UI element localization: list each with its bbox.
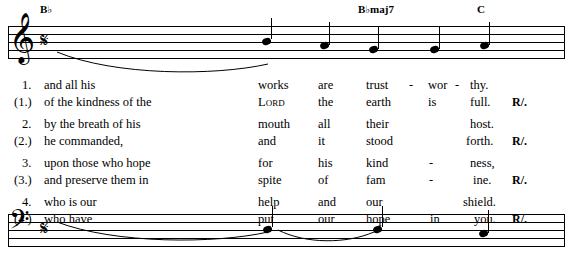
slur (276, 228, 376, 246)
bass-clef-icon: 𝄢 (9, 207, 30, 239)
verse-text: and all his (44, 78, 95, 93)
verse-syllable: works (258, 78, 289, 93)
treble-clef-icon: 𝄞 (9, 15, 35, 59)
verse-hyphen: - (429, 156, 433, 171)
cut-time-meter-icon: 𝄋 (40, 28, 48, 52)
verse-number: (1.) (14, 95, 32, 110)
verse-number: (2.) (14, 134, 32, 149)
note-stem (488, 210, 489, 233)
verse-syllable: of (318, 173, 328, 188)
verse-syllable: all (318, 117, 331, 132)
verse-line: (1.) of the kindness of the Lord the ear… (0, 95, 573, 112)
chord-quality: maj7 (370, 3, 394, 15)
verse-syllable: earth (366, 95, 391, 110)
verse-syllable: the (318, 95, 333, 110)
verse-syllable: Lord (258, 95, 285, 110)
verse-hyphen: - (455, 78, 459, 93)
staff-line (8, 34, 565, 35)
cut-time-meter-icon: 𝄋 (40, 216, 48, 240)
note-stem (489, 22, 490, 45)
bass-system: 𝄢 𝄋 (0, 208, 573, 256)
note-stem (271, 18, 272, 39)
note-stem (439, 26, 440, 49)
verse-syllable: host. (470, 117, 494, 132)
verse-text: and preserve them in (44, 173, 148, 188)
verse-text: by the breath of his (44, 117, 141, 132)
slur (55, 50, 270, 78)
verse-line: (3.) and preserve them in spite of fam -… (0, 173, 573, 190)
verse-syllable: it (318, 134, 325, 149)
response-mark: R/. (512, 173, 527, 188)
verse-hyphen: - (429, 173, 433, 188)
chord-root: C (477, 3, 485, 15)
verse-syllable: stood (366, 134, 393, 149)
staff-line (8, 26, 565, 27)
chord-symbol-bbmaj7: B♭maj7 (358, 3, 394, 15)
chord-symbol-bb: B♭ (40, 3, 52, 15)
response-mark: R/. (512, 95, 527, 110)
staff-line (8, 214, 565, 215)
verse-text: of the kindness of the (44, 95, 152, 110)
verse-syllable: thy. (470, 78, 488, 93)
verse-line: (2.) he commanded, and it stood forth. R… (0, 134, 573, 151)
verse-syllable: forth. (466, 134, 493, 149)
verse-syllable: ness, (470, 156, 495, 171)
note-stem (378, 26, 379, 49)
barline-end (564, 214, 565, 247)
response-mark: R/. (512, 134, 527, 149)
verse-syllable: his (318, 156, 333, 171)
verse-syllable: are (318, 78, 333, 93)
verse-syllable: wor (428, 78, 447, 93)
verse-syllable: mouth (258, 117, 290, 132)
note-stem (272, 206, 273, 227)
verse-syllable: full. (470, 95, 490, 110)
verse-syllable: spite (258, 173, 282, 188)
verse-number: 3. (22, 156, 31, 171)
verse-number: (3.) (14, 173, 32, 188)
verse-syllable: for (258, 156, 273, 171)
treble-system: 𝄞 𝄋 (0, 20, 573, 70)
verse-number: 1. (22, 78, 31, 93)
chord-symbol-c: C (477, 3, 485, 15)
chord-accidental: ♭ (47, 4, 52, 15)
barline-end (564, 26, 565, 59)
verse-syllable: their (366, 117, 389, 132)
verse-syllable: and (258, 134, 276, 149)
note-stem (329, 22, 330, 45)
verse-syllable: kind (366, 156, 388, 171)
verse-syllable: ine. (473, 173, 491, 188)
verse-text: upon those who hope (44, 156, 151, 171)
verse-block: 1. and all his works are trust - wor - t… (0, 78, 573, 228)
note-stem (382, 206, 383, 227)
verse-line: 1. and all his works are trust - wor - t… (0, 78, 573, 95)
score-page: B♭ B♭maj7 C 𝄞 𝄋 (0, 0, 573, 256)
staff-line (8, 246, 565, 247)
verse-syllable: fam (366, 173, 385, 188)
verse-line: 3. upon those who hope for his kind - ne… (0, 156, 573, 173)
verse-syllable: trust (366, 78, 388, 93)
slur (55, 220, 270, 246)
verse-hyphen: - (409, 78, 413, 93)
verse-syllable: is (428, 95, 436, 110)
verse-line: 2. by the breath of his mouth all their … (0, 117, 573, 134)
verse-number: 2. (22, 117, 31, 132)
verse-text: he commanded, (44, 134, 123, 149)
